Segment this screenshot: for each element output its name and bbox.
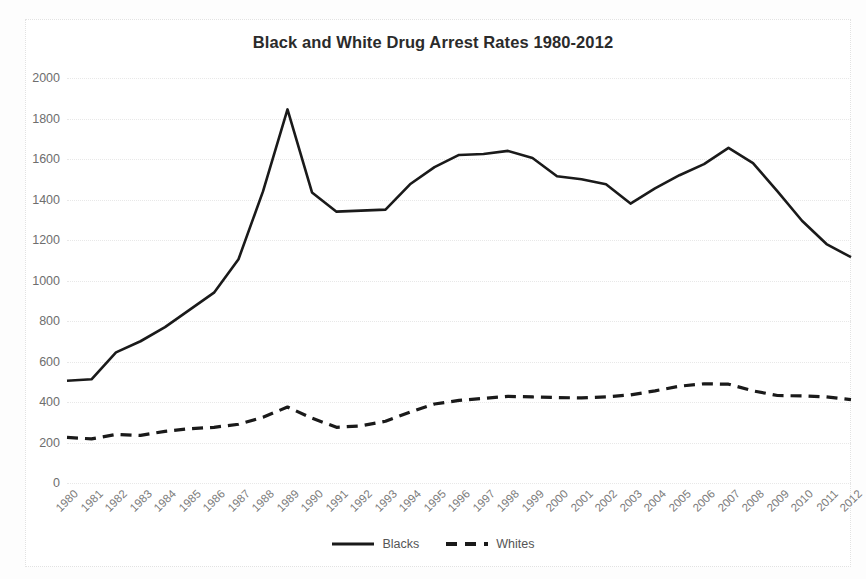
x-axis-tick-label: 1983 [125,487,153,515]
x-axis-tick-label: 2001 [566,487,594,515]
chart-title: Black and White Drug Arrest Rates 1980-2… [0,33,866,52]
x-axis-tick-label: 1994 [395,487,423,515]
x-axis-tick-label: 2003 [615,487,643,515]
x-axis-tick-label: 1984 [150,487,178,515]
chart-legend: BlacksWhites [0,538,866,551]
legend-label: Whites [496,538,534,551]
legend-item-whites[interactable]: Whites [445,538,534,551]
y-axis-tick-label: 1000 [12,274,60,288]
x-axis-tick-label: 1998 [493,487,521,515]
chart-container: Black and White Drug Arrest Rates 1980-2… [0,0,866,579]
y-axis-tick-label: 600 [12,355,60,369]
x-axis-labels: 1980198119821983198419851986198719881989… [67,486,851,542]
y-axis-tick-label: 0 [12,476,60,490]
x-axis-tick-label: 1987 [223,487,251,515]
y-axis-tick-label: 1400 [12,193,60,207]
x-axis-tick-label: 1982 [101,487,129,515]
legend-item-blacks[interactable]: Blacks [331,538,419,551]
gridline [67,483,851,484]
x-axis-tick-label: 2011 [811,487,839,515]
x-axis-tick-label: 1999 [517,487,545,515]
y-axis-tick-label: 1200 [12,233,60,247]
y-axis-tick-label: 400 [12,395,60,409]
x-axis-tick-label: 1986 [199,487,227,515]
y-axis-tick-label: 200 [12,436,60,450]
y-axis-tick-label: 800 [12,314,60,328]
x-axis-tick-label: 1996 [444,487,472,515]
x-axis-tick-label: 1985 [174,487,202,515]
x-axis-tick-label: 1991 [321,487,349,515]
x-axis-tick-label: 2007 [713,487,741,515]
x-axis-tick-label: 1989 [272,487,300,515]
x-axis-tick-label: 1981 [76,487,104,515]
x-axis-tick-label: 2005 [664,487,692,515]
x-axis-tick-label: 1988 [248,487,276,515]
y-axis-tick-label: 1800 [12,112,60,126]
x-axis-tick-label: 2009 [762,487,790,515]
x-axis-tick-label: 2008 [738,487,766,515]
x-axis-tick-label: 2004 [640,487,668,515]
series-line-blacks [67,109,851,380]
series-layer [67,78,851,483]
x-axis-tick-label: 2000 [542,487,570,515]
legend-label: Blacks [382,538,419,551]
x-axis-tick-label: 2010 [787,487,815,515]
legend-swatch-dashed-icon [445,539,489,549]
x-axis-tick-label: 1990 [297,487,325,515]
x-axis-tick-label: 1993 [370,487,398,515]
legend-swatch-solid-icon [331,539,375,549]
x-axis-tick-label: 2012 [836,487,864,515]
y-axis-tick-label: 2000 [12,71,60,85]
x-axis-tick-label: 1995 [419,487,447,515]
x-axis-tick-label: 1997 [468,487,496,515]
x-axis-tick-label: 2006 [689,487,717,515]
y-axis-labels: 2000180016001400120010008006004002000 [8,78,60,483]
x-axis-tick-label: 2002 [591,487,619,515]
x-axis-tick-label: 1992 [346,487,374,515]
plot-area [67,78,851,483]
series-line-whites [67,384,851,439]
y-axis-tick-label: 1600 [12,152,60,166]
